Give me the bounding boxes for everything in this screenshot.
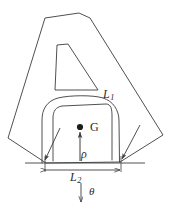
- left-foot-arrow: [45, 128, 60, 160]
- a-shape-diagram: [0, 0, 172, 210]
- label-L1-subscript: 1: [110, 93, 115, 102]
- label-centroid: G: [90, 121, 99, 133]
- counter-hole-outline: [55, 44, 98, 90]
- label-base-width: L2: [70, 171, 81, 185]
- right-foot-arrow: [122, 125, 140, 159]
- label-rho-symbol: ρ: [81, 147, 87, 161]
- centroid-dot: [77, 124, 83, 130]
- label-radius: ρ: [81, 148, 87, 160]
- label-L2-subscript: 2: [77, 176, 82, 185]
- outer-body-outline: [8, 13, 163, 163]
- label-L2-symbol: L: [70, 170, 77, 184]
- figure-container: L1 G ρ L2 θ: [0, 0, 172, 210]
- label-L1-symbol: L: [103, 87, 110, 101]
- label-angle: θ: [89, 186, 94, 197]
- label-theta-symbol: θ: [89, 185, 94, 197]
- label-arch-length: L1: [103, 88, 114, 102]
